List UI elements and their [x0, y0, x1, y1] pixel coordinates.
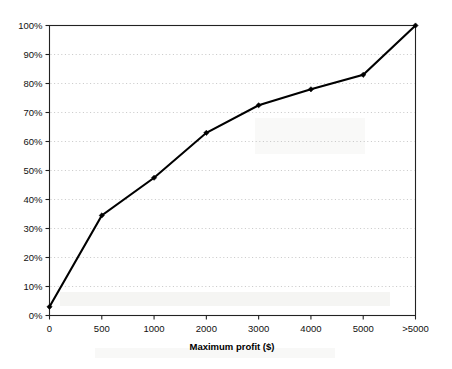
x-tick-label: 4000 — [300, 323, 321, 334]
chart-container: 0%10%20%30%40%50%60%70%80%90%100% 050010… — [0, 0, 452, 369]
y-tick-label: 90% — [23, 49, 43, 60]
x-tick-label: 0 — [47, 323, 52, 334]
line-chart: 0%10%20%30%40%50%60%70%80%90%100% 050010… — [0, 0, 452, 369]
x-tick-label: 3000 — [248, 323, 269, 334]
x-tick-label: 1000 — [144, 323, 165, 334]
x-tick-label: 5000 — [353, 323, 374, 334]
y-tick-label: 70% — [23, 107, 43, 118]
y-tick-marks-group — [46, 26, 50, 316]
y-tick-label: 0% — [29, 310, 43, 321]
y-tick-label: 100% — [18, 20, 43, 31]
x-tick-label: 500 — [94, 323, 110, 334]
y-tick-label: 50% — [23, 165, 43, 176]
data-point-markers-group — [47, 23, 418, 310]
x-tick-marks-group — [50, 316, 416, 320]
gridlines-group — [51, 55, 415, 287]
y-tick-label: 30% — [23, 223, 43, 234]
x-tick-label: >5000 — [402, 323, 429, 334]
y-tick-labels-group: 0%10%20%30%40%50%60%70%80%90%100% — [18, 20, 43, 321]
x-tick-labels-group: 050010002000300040005000>5000 — [47, 323, 429, 334]
y-tick-label: 20% — [23, 252, 43, 263]
y-tick-label: 40% — [23, 194, 43, 205]
data-series-line — [50, 26, 416, 307]
y-tick-label: 60% — [23, 136, 43, 147]
y-tick-label: 80% — [23, 78, 43, 89]
x-tick-label: 2000 — [196, 323, 217, 334]
x-axis-title: Maximum profit ($) — [190, 341, 275, 352]
data-point-marker — [308, 87, 313, 92]
y-tick-label: 10% — [23, 281, 43, 292]
